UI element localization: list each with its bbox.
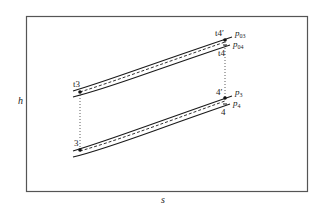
label-p03: p03 (234, 28, 246, 39)
label-t3: t3 (73, 79, 81, 89)
expansion-line-lower (80, 101, 225, 151)
expansion-line-upper (80, 42, 225, 92)
isobar-p04 (73, 45, 230, 97)
label-p03-sub: 03 (240, 33, 246, 39)
point-t3 (78, 90, 82, 94)
label-p04: p04 (232, 39, 244, 50)
label-p3-sub: 3 (240, 92, 243, 98)
point-t4-prime (223, 38, 227, 42)
label-t4: t4 (218, 48, 226, 58)
label-p4: p4 (232, 98, 241, 109)
isobar-p3 (73, 96, 232, 151)
label-t4-prime: t4′ (215, 28, 224, 38)
label-p4-sub: 4 (238, 103, 241, 109)
label-4-prime: 4′ (216, 87, 223, 97)
label-p3: p3 (234, 87, 243, 98)
isobar-p4 (73, 104, 230, 157)
label-4: 4 (221, 107, 226, 117)
point-3 (78, 148, 82, 152)
label-p04-sub: 04 (238, 44, 244, 50)
x-axis-label: s (161, 194, 165, 205)
label-3: 3 (74, 138, 79, 148)
hs-diagram: h s t3 t4′ t4 3 4′ 4 p03 p04 p3 p4 (0, 0, 312, 214)
isobar-p03 (73, 37, 232, 91)
point-4-prime (223, 96, 227, 100)
plot-frame (27, 17, 308, 192)
y-axis-label: h (18, 95, 23, 106)
